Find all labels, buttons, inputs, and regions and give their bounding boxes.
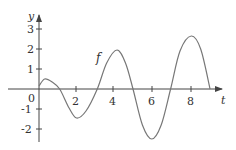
function-curve-f	[39, 36, 210, 139]
function-label: f	[95, 51, 103, 65]
t-axis-label: t	[221, 94, 226, 107]
function-plot: 2 4 6 8 3 2 1 -1 -2 0 y t f	[0, 0, 236, 150]
y-axis-label: y	[27, 10, 35, 23]
x-tick-label-2: 2	[72, 95, 79, 108]
x-tick-label-6: 6	[148, 95, 155, 108]
x-tick-label-4: 4	[109, 95, 116, 108]
origin-label: 0	[28, 92, 35, 105]
y-tick-label-2: 2	[27, 43, 34, 56]
y-tick-label-neg2: -2	[21, 123, 32, 136]
y-tick-label-3: 3	[27, 23, 34, 36]
y-tick-label-1: 1	[27, 63, 34, 76]
x-tick-label-8: 8	[187, 95, 194, 108]
